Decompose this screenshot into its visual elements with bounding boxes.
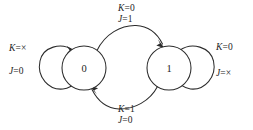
state-node-1-label: 1 [166, 63, 171, 74]
transition-0-to-1-label-j: J=1 [118, 14, 133, 26]
self-loop-state-1-label-j: J=× [216, 68, 231, 80]
value-j: 0 [19, 66, 24, 76]
value-k: 0 [130, 3, 135, 13]
transition-1-to-0-label-k: K=1 [118, 104, 135, 116]
self-loop-state-0-label-k: K=× [9, 43, 26, 55]
self-loop-state-0-label-j: J=0 [9, 66, 24, 78]
value-k: 0 [228, 42, 233, 52]
value-j: 1 [128, 14, 133, 24]
state-node-0-label: 0 [81, 63, 86, 74]
transition-0-to-1-label-k: K=0 [118, 3, 135, 15]
transition-0-to-1-path [97, 25, 163, 50]
self-loop-state-1-label-k: K=0 [216, 42, 233, 54]
value-j: 0 [128, 115, 133, 125]
value-k: 1 [130, 104, 135, 114]
state-diagram: 0 1 K=× J=0 K=0 J=1 K=1 J=0 K=0 J=× [0, 0, 253, 130]
value-k: × [21, 43, 26, 53]
value-j: × [226, 68, 231, 78]
transition-1-to-0-label-j: J=0 [118, 115, 133, 127]
